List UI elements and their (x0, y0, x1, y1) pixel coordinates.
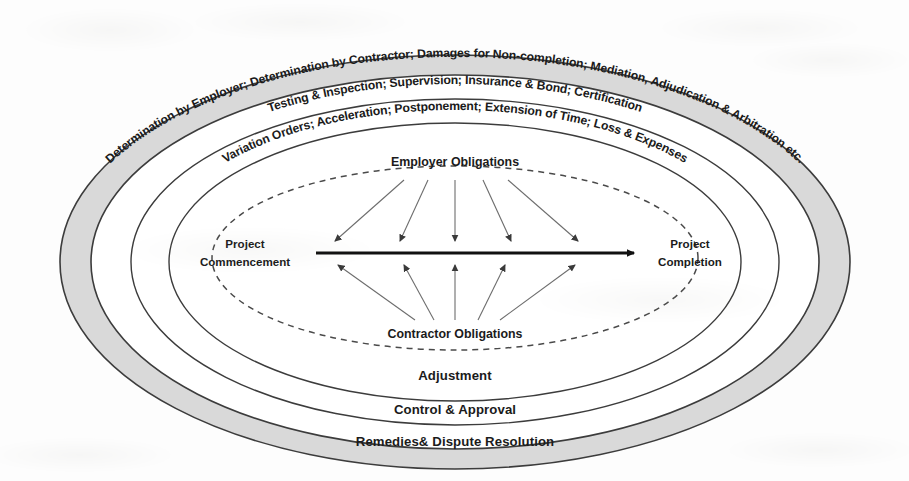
employer-obligations-label: Employer Obligations (391, 155, 519, 169)
ring-outer-bottom-label: Remedies& Dispute Resolution (356, 434, 554, 449)
project-commencement-line2: Commencement (200, 255, 290, 268)
concentric-ellipse-diagram: Determination by Employer; Determination… (0, 0, 909, 481)
project-completion-line2: Completion (658, 255, 722, 268)
contractor-obligations-label: Contractor Obligations (388, 327, 523, 341)
ring-second-bottom-label: Control & Approval (394, 402, 516, 417)
diagram-root: Determination by Employer; Determination… (0, 0, 909, 481)
project-commencement-line1: Project (225, 237, 264, 250)
ring-third-bottom-label: Adjustment (418, 368, 492, 383)
project-completion-line1: Project (670, 237, 709, 250)
